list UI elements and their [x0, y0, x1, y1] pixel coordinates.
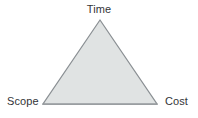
vertex-label-time: Time: [0, 3, 198, 16]
vertex-label-scope: Scope: [7, 95, 39, 108]
vertex-label-cost: Cost: [165, 95, 188, 108]
triangle-polygon: [43, 20, 157, 104]
triangle-diagram: Time Scope Cost: [0, 0, 198, 118]
